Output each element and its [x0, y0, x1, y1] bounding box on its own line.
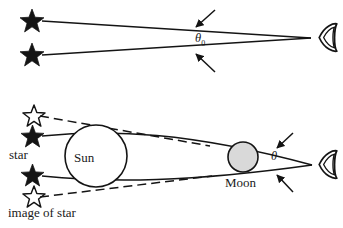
observer-eye-bottom — [319, 151, 337, 179]
label-star: star — [9, 148, 28, 161]
star-lower-bottom — [21, 164, 44, 186]
panel-deflected — [21, 105, 337, 207]
theta-zero-subscript: 0 — [201, 39, 205, 48]
image-star-upper — [23, 105, 45, 126]
star-upper-bottom — [21, 125, 44, 147]
ray-lower-top — [42, 38, 311, 55]
angle-arrow-top-upper — [196, 10, 215, 27]
panel-undeflected — [20, 9, 337, 72]
star-upper-top — [20, 9, 44, 32]
label-image-of-star: image of star — [8, 206, 76, 219]
angle-arrow-bottom-upper — [277, 133, 293, 148]
moon-body — [228, 142, 258, 172]
star-lower-top — [20, 43, 44, 66]
ray-upper-top — [42, 21, 311, 38]
label-moon: Moon — [225, 176, 256, 189]
angle-arrow-top-lower — [196, 54, 215, 72]
label-sun: Sun — [74, 151, 94, 164]
angle-arrow-bottom-lower — [277, 175, 293, 192]
observer-eye-top — [319, 24, 337, 52]
angle-label-theta: θ — [271, 150, 277, 163]
sightline-dashed-upper — [40, 116, 210, 146]
angle-label-theta-zero: θ0 — [195, 32, 205, 48]
sightline-dashed-lower — [40, 176, 212, 197]
physics-diagram — [0, 0, 343, 228]
